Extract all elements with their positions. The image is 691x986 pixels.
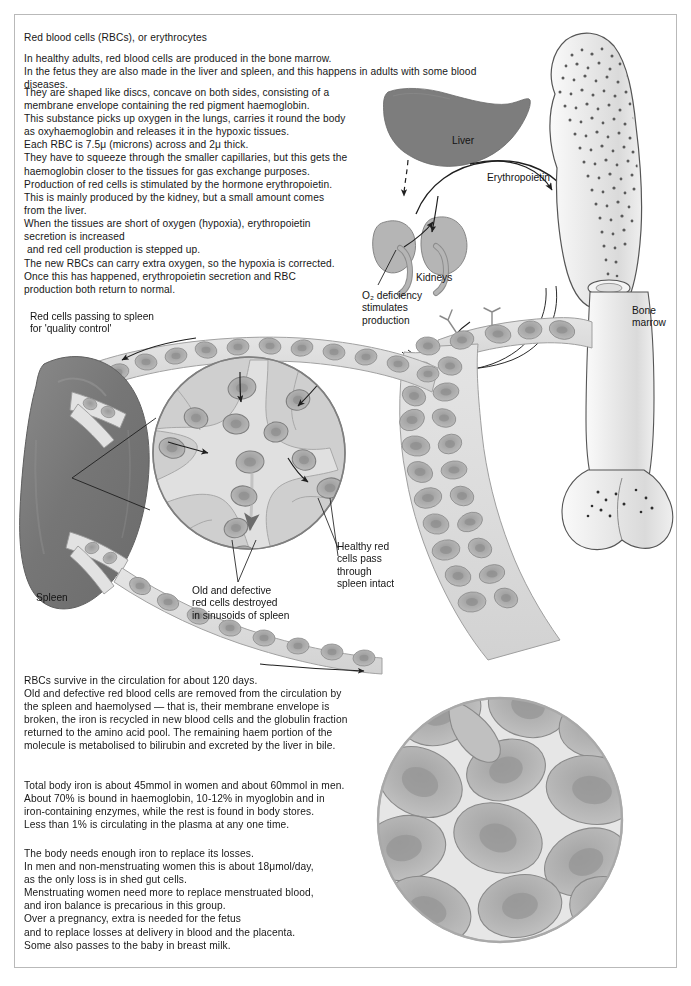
label-bone-marrow: Bone marrow: [632, 305, 688, 330]
paragraph-iron-requirements: The body needs enough iron to replace it…: [24, 847, 394, 952]
label-liver: Liver: [452, 135, 474, 147]
paragraph-erythropoietin: Production of red cells is stimulated by…: [24, 178, 354, 296]
label-spleen: Spleen: [36, 592, 68, 604]
paragraph-iron-stores: Total body iron is about 45mmol in women…: [24, 779, 394, 831]
label-kidneys: Kidneys: [416, 272, 452, 284]
paragraph-lifespan: RBCs survive in the circulation for abou…: [24, 674, 394, 753]
page-root: Red blood cells (RBCs), or erythrocytes …: [0, 0, 691, 986]
label-o2-deficiency: O₂ deficiency stimulates production: [362, 290, 462, 327]
paragraph-structure: They are shaped like discs, concave on b…: [24, 86, 374, 178]
label-red-cells-passing: Red cells passing to spleen for 'quality…: [30, 311, 210, 336]
label-healthy-cells: Healthy red cells pass through spleen in…: [337, 541, 417, 591]
page-title: Red blood cells (RBCs), or erythrocytes: [24, 31, 354, 44]
label-old-defective-cells: Old and defective red cells destroyed in…: [192, 585, 342, 622]
label-erythropoietin: Erythropoietin: [487, 172, 550, 184]
